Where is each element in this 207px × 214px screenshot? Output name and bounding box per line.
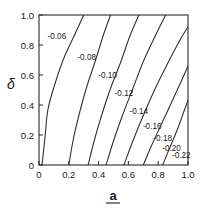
y-tick-label: 0.6 xyxy=(21,70,34,81)
contour-label: -0.22 xyxy=(172,151,191,160)
y-tick-label: 1.0 xyxy=(21,10,34,21)
x-tick-label: 0.4 xyxy=(92,169,105,180)
x-tick-label: 0.2 xyxy=(62,169,75,180)
y-tick-label: 0.2 xyxy=(21,130,34,141)
y-axis-title: δ xyxy=(7,76,15,92)
contour-label: -0.12 xyxy=(115,89,134,98)
contour-label: -0.10 xyxy=(98,71,117,80)
x-tick-label: 1.0 xyxy=(181,169,194,180)
contour-label: -0.14 xyxy=(129,107,148,116)
y-tick-label: 0.8 xyxy=(21,40,34,51)
contour-label: -0.06 xyxy=(48,32,67,41)
x-tick-label: 0 xyxy=(36,169,41,180)
y-tick-label: 0.4 xyxy=(21,100,34,111)
contour-label: -0.16 xyxy=(143,122,162,131)
contour-plot-figure: 00.20.40.60.81.0 00.20.40.60.81.0 -0.06-… xyxy=(0,0,207,214)
x-axis-title: a xyxy=(109,188,117,203)
contour-label: -0.18 xyxy=(153,134,172,143)
contour-label: -0.08 xyxy=(77,53,96,62)
y-tick-label: 0 xyxy=(29,160,34,171)
x-tick-label: 0.8 xyxy=(152,169,165,180)
x-tick-label: 0.6 xyxy=(122,169,135,180)
